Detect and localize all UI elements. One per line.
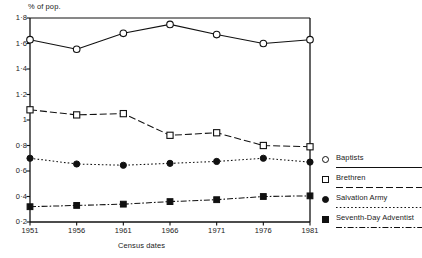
data-point-marker xyxy=(167,21,174,28)
x-tick-label: 1976 xyxy=(246,226,280,235)
data-point-marker xyxy=(214,158,220,164)
legend-line-sample xyxy=(336,186,422,189)
x-axis-title: Census dates xyxy=(118,241,165,250)
data-point-marker xyxy=(74,161,80,167)
legend-marker-icon xyxy=(322,176,329,183)
legend: BaptistsBrethrenSalvation ArmySeventh-Da… xyxy=(322,152,422,232)
data-point-marker xyxy=(213,31,220,38)
data-point-marker xyxy=(167,160,173,166)
y-axis-title: % of pop. xyxy=(28,2,61,11)
series-line xyxy=(30,110,310,147)
y-tick-label: 0·4 xyxy=(5,193,27,201)
data-point-marker xyxy=(214,130,220,136)
data-point-marker xyxy=(167,132,173,138)
y-tick-label: 1·4 xyxy=(5,65,27,73)
data-point-marker xyxy=(120,201,126,207)
data-point-marker xyxy=(307,36,314,43)
data-point-marker xyxy=(260,155,266,161)
data-point-marker xyxy=(307,144,313,150)
legend-item-label: Seventh-Day Adventist xyxy=(336,213,414,222)
data-point-marker xyxy=(307,159,313,165)
x-tick-label: 1951 xyxy=(13,226,47,235)
data-point-marker xyxy=(260,194,266,200)
data-point-marker xyxy=(120,162,126,168)
legend-item: Salvation Army xyxy=(322,192,422,212)
data-point-marker xyxy=(27,36,34,43)
y-tick-label: 1·2 xyxy=(5,91,27,99)
legend-marker-icon xyxy=(322,156,329,163)
y-tick-label: 1·6 xyxy=(5,40,27,48)
y-tick-label: 1·8 xyxy=(5,14,27,22)
y-axis-tick-labels: 0·20·40·60·811·21·41·61·8 xyxy=(0,0,27,258)
data-point-marker xyxy=(167,199,173,205)
data-point-marker xyxy=(260,40,267,47)
data-point-marker xyxy=(73,46,80,53)
legend-item-label: Brethren xyxy=(336,173,366,182)
data-point-marker xyxy=(27,155,33,161)
data-point-marker xyxy=(307,193,313,199)
data-point-marker xyxy=(27,107,33,113)
x-tick-label: 1961 xyxy=(106,226,140,235)
data-point-marker xyxy=(27,204,33,210)
data-point-marker xyxy=(120,30,127,37)
legend-marker-icon xyxy=(322,196,329,203)
data-point-marker xyxy=(74,112,80,118)
line-chart: % of pop. Census dates 0·20·40·60·811·21… xyxy=(0,0,422,258)
legend-line-sample xyxy=(336,226,422,229)
data-point-marker xyxy=(214,197,220,203)
y-tick-label: 0·6 xyxy=(5,167,27,175)
x-tick-label: 1971 xyxy=(200,226,234,235)
legend-item: Brethren xyxy=(322,172,422,192)
legend-line-sample xyxy=(336,206,422,209)
legend-item: Seventh-Day Adventist xyxy=(322,212,422,232)
legend-item-label: Salvation Army xyxy=(336,193,387,202)
data-point-marker xyxy=(74,203,80,209)
y-tick-label: 0·2 xyxy=(5,218,27,226)
legend-item-label: Baptists xyxy=(336,153,363,162)
y-tick-label: 0·8 xyxy=(5,142,27,150)
x-tick-label: 1956 xyxy=(60,226,94,235)
data-point-marker xyxy=(120,111,126,117)
x-tick-label: 1966 xyxy=(153,226,187,235)
legend-marker-icon xyxy=(322,216,329,223)
y-tick-label: 1 xyxy=(5,116,27,124)
data-point-marker xyxy=(260,142,266,148)
legend-item: Baptists xyxy=(322,152,422,172)
legend-line-sample xyxy=(336,166,422,169)
